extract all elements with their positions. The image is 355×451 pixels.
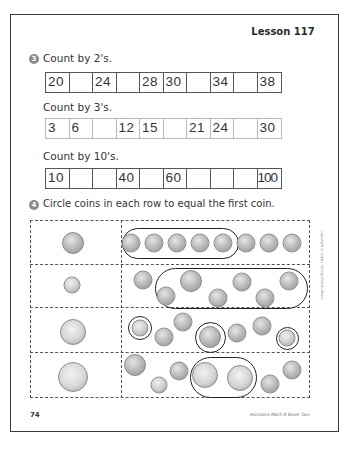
blank-cell[interactable] [164,119,188,138]
penny-coin-icon[interactable] [214,234,233,253]
penny-coin-icon[interactable] [280,272,299,291]
penny-coin-icon[interactable] [283,361,302,380]
penny-coin-icon[interactable] [283,234,302,253]
number-cell: 20 [46,73,70,92]
count-by-3s-row: 3 6 12 15 21 24 30 [45,118,282,139]
number-cell: 60 [164,169,188,188]
penny-coin-icon[interactable] [260,234,279,253]
number-cell: 30 [258,119,282,138]
count-by-10s-heading: Count by 10's. [43,150,119,162]
number-cell: 10 [46,169,70,188]
row-divider [30,352,310,353]
blank-cell[interactable] [93,169,117,188]
blank-cell[interactable] [234,119,258,138]
page-number: 74 [30,411,40,419]
penny-coin-icon[interactable] [134,271,153,290]
count-by-2s-heading: Count by 2's. [43,52,112,64]
penny-coin-icon[interactable] [228,324,247,343]
nickel-coin-icon[interactable] [180,270,202,292]
problem-3-number-icon: 3 [29,54,39,64]
number-cell: 34 [211,73,235,92]
copyright-notice: Copyright © Alpha Omega Publications [320,230,324,299]
penny-coin-icon[interactable] [145,234,164,253]
dime-coin-icon[interactable] [132,320,149,337]
penny-coin-icon[interactable] [253,317,272,336]
blank-cell[interactable] [93,119,117,138]
row-divider [30,264,310,265]
penny-coin-icon[interactable] [174,313,193,332]
lesson-label: Lesson 117 [238,23,328,41]
penny-coin-icon[interactable] [168,234,187,253]
blank-cell[interactable] [211,169,235,188]
penny-coin-icon[interactable] [170,362,189,381]
number-cell: 38 [258,73,282,92]
blank-cell[interactable] [187,169,211,188]
dime-coin-icon [64,277,81,294]
number-cell: 40 [117,169,141,188]
penny-coin-icon[interactable] [233,273,252,292]
quarter-coin-icon[interactable] [227,365,253,391]
number-cell: 3 [46,119,70,138]
number-cell: 15 [140,119,164,138]
dime-coin-icon[interactable] [279,330,296,347]
count-by-3s-heading: Count by 3's. [43,101,112,113]
nickel-coin-icon [62,232,84,254]
number-cell: 100 [258,169,282,188]
blank-cell[interactable] [70,73,94,92]
blank-cell[interactable] [140,169,164,188]
penny-coin-icon[interactable] [237,234,256,253]
number-cell: 30 [164,73,188,92]
number-cell: 28 [140,73,164,92]
nickel-coin-icon[interactable] [199,326,221,348]
penny-coin-icon[interactable] [191,234,210,253]
penny-coin-icon[interactable] [261,375,280,394]
blank-cell[interactable] [70,169,94,188]
number-cell: 21 [187,119,211,138]
penny-coin-icon[interactable] [157,287,176,306]
penny-coin-icon[interactable] [209,289,228,308]
penny-coin-icon[interactable] [256,289,275,308]
count-by-2s-row: 20 24 28 30 34 38 [45,72,282,93]
problem-4-number-icon: 4 [29,200,39,210]
dime-coin-icon[interactable] [151,377,168,394]
number-cell: 6 [70,119,94,138]
coin-instruction: Circle coins in each row to equal the fi… [43,198,275,209]
nickel-coin-icon[interactable] [124,354,146,376]
quarter-coin-icon[interactable] [192,362,218,388]
count-by-10s-row: 10 40 60 100 [45,168,282,189]
blank-cell[interactable] [187,73,211,92]
penny-coin-icon[interactable] [155,328,174,347]
blank-cell[interactable] [234,73,258,92]
penny-coin-icon[interactable] [122,234,141,253]
blank-cell[interactable] [234,169,258,188]
number-cell: 24 [211,119,235,138]
quarter-coin-icon [60,319,86,345]
number-cell: 12 [117,119,141,138]
book-title: Horizons Math K Book Two [250,412,310,417]
blank-cell[interactable] [117,73,141,92]
half-dollar-coin-icon [58,362,88,392]
number-cell: 24 [93,73,117,92]
